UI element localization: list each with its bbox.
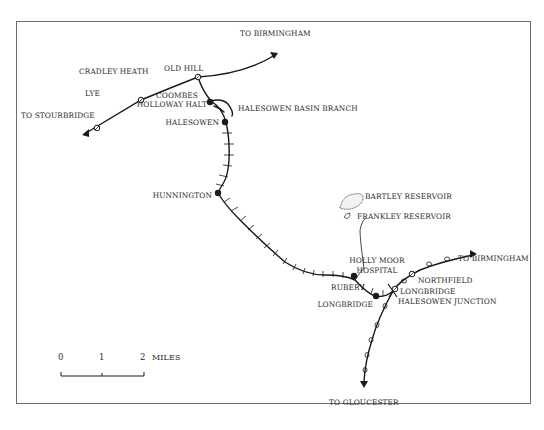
bartley-reservoir-icon (340, 194, 363, 210)
label-longbridge-jn: LONGBRIDGE (400, 287, 455, 296)
station-coombes-icon (207, 99, 213, 105)
line-basin-branch-2 (214, 106, 224, 112)
label-halesowen: HALESOWEN (150, 118, 219, 127)
label-old-hill: OLD HILL (164, 64, 203, 73)
label-holloway-halt: HOLLOWAY HALT (130, 100, 207, 109)
scale-unit: MILES (152, 353, 180, 362)
label-to-stourbridge: TO STOURBRIDGE (21, 111, 95, 120)
arrow-to-gloucester-icon (360, 381, 368, 388)
label-halesowen-junction: HALESOWEN JUNCTION (398, 297, 497, 306)
station-longbridge-icon (373, 293, 379, 299)
line-basin-branch (211, 100, 233, 116)
frankley-reservoir-icon (344, 213, 350, 219)
scale-tick-2: 2 (140, 352, 145, 362)
label-to-birmingham-north: TO BIRMINGHAM (240, 29, 311, 38)
scale-tick-0: 0 (58, 352, 63, 362)
label-to-gloucester: TO GLOUCESTER (329, 398, 399, 407)
label-rubery: RUBERY (331, 283, 364, 292)
label-hunnington: HUNNINGTON (140, 191, 212, 200)
label-longbridge: LONGBRIDGE (302, 300, 373, 309)
label-holly-moor: HOLLY MOOR (344, 256, 410, 265)
label-frankley-reservoir: FRANKLEY RESERVOIR (357, 212, 451, 221)
scale-bar-graphic (61, 372, 144, 376)
label-to-birmingham-east: TO BIRMINGHAM (458, 254, 529, 263)
arrow-to-stourbridge-icon (82, 129, 89, 137)
label-basin-branch: HALESOWEN BASIN BRANCH (238, 104, 358, 113)
label-northfield: NORTHFIELD (418, 276, 473, 285)
label-lye: LYE (85, 89, 100, 98)
station-halesowen-icon (222, 119, 228, 125)
scale-tick-1: 1 (99, 352, 104, 362)
label-bartley-reservoir: BARTLEY RESERVOIR (365, 192, 452, 201)
label-cradley-heath: CRADLEY HEATH (79, 67, 148, 76)
route-map-graphic (0, 0, 544, 430)
label-coombes: COOMBES (148, 91, 206, 100)
label-hospital: HOSPITAL (344, 266, 410, 275)
station-hunnington-icon (215, 190, 221, 196)
